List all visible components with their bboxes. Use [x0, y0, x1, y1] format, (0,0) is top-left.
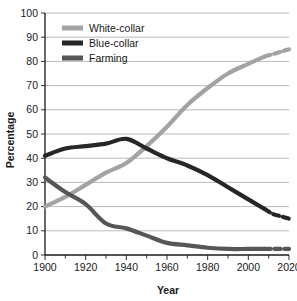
x-tick-label: 1960 [155, 261, 179, 273]
series-projection-white-collar [265, 49, 289, 56]
y-tick-label: 90 [26, 31, 38, 43]
y-tick-label: 70 [26, 79, 38, 91]
legend-swatch [62, 26, 83, 31]
x-tick-label: 1920 [74, 261, 98, 273]
series-projection-blue-collar [265, 209, 289, 219]
data-series [45, 49, 289, 249]
axis-tickmarks [41, 13, 289, 260]
chart-container: 0102030405060708090100 19001920194019601… [0, 0, 297, 301]
x-tick-label: 1940 [115, 261, 139, 273]
x-tick-label: 1900 [33, 261, 57, 273]
y-tick-label: 40 [26, 152, 38, 164]
y-tick-label: 30 [26, 176, 38, 188]
y-tick-label: 60 [26, 103, 38, 115]
gridlines [45, 13, 289, 231]
y-tick-label: 100 [20, 7, 38, 19]
y-axis-title: Percentage [4, 112, 16, 169]
series-line-white-collar [45, 57, 265, 207]
chart-legend: White-collarBlue-collarFarming [62, 22, 145, 64]
y-tick-label: 10 [26, 224, 38, 236]
legend-swatch [62, 56, 83, 61]
legend-label: Farming [89, 52, 128, 64]
x-axis-title: Year [157, 284, 179, 296]
line-chart: 0102030405060708090100 19001920194019601… [0, 0, 297, 301]
y-axis-tick-labels: 0102030405060708090100 [20, 7, 38, 261]
y-tick-label: 80 [26, 55, 38, 67]
legend-label: Blue-collar [89, 37, 139, 49]
y-tick-label: 0 [32, 249, 38, 261]
x-tick-label: 1980 [196, 261, 220, 273]
x-tick-label: 2000 [237, 261, 261, 273]
x-tick-label: 2020 [277, 261, 297, 273]
legend-label: White-collar [89, 22, 145, 34]
x-axis-tick-labels: 1900192019401960198020002020 [33, 261, 297, 273]
legend-swatch [62, 41, 83, 46]
y-tick-label: 20 [26, 200, 38, 212]
y-tick-label: 50 [26, 128, 38, 140]
